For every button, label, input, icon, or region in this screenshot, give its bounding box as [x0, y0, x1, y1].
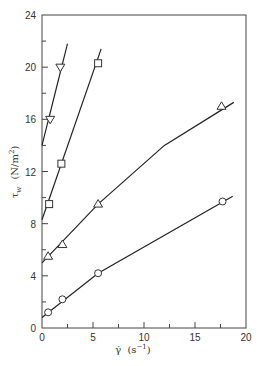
fit-line-square	[42, 49, 101, 220]
square-marker-icon	[46, 201, 53, 208]
circle-marker-icon	[59, 296, 66, 303]
circle-marker-icon	[45, 309, 52, 316]
chart: 05101520 04812162024 γ̇ (s−1) τw (N/m2)	[0, 0, 262, 366]
y-tick-label: 12	[25, 167, 37, 178]
fit-line-inverted-triangle	[42, 44, 68, 146]
triangle-up-marker-icon	[58, 240, 67, 248]
y-axis-ticks: 04812162024	[25, 10, 48, 334]
x-tick-label: 20	[240, 332, 252, 343]
circle-marker-icon	[219, 198, 226, 205]
fit-lines	[42, 44, 234, 318]
fit-line-triangle	[42, 102, 234, 262]
triangle-down-marker-icon	[56, 64, 65, 72]
y-tick-label: 8	[30, 219, 36, 230]
x-axis-label: γ̇ (s−1)	[115, 343, 151, 355]
x-tick-label: 0	[39, 332, 45, 343]
y-axis-label: τw (N/m2)	[8, 146, 23, 199]
y-tick-label: 24	[25, 10, 37, 21]
square-marker-icon	[58, 160, 65, 167]
data-markers	[44, 60, 226, 316]
fit-line-circle	[42, 196, 233, 317]
x-tick-label: 5	[90, 332, 96, 343]
y-tick-label: 0	[30, 323, 36, 334]
y-tick-label: 20	[25, 62, 37, 73]
square-marker-icon	[95, 60, 102, 67]
circle-marker-icon	[95, 270, 102, 277]
y-tick-label: 16	[25, 114, 37, 125]
x-tick-label: 15	[189, 332, 201, 343]
triangle-down-marker-icon	[46, 116, 55, 124]
plot-frame	[42, 15, 246, 328]
x-tick-label: 10	[138, 332, 150, 343]
x-axis-ticks: 05101520	[39, 322, 252, 343]
triangle-up-marker-icon	[217, 102, 226, 110]
y-tick-label: 4	[30, 271, 36, 282]
